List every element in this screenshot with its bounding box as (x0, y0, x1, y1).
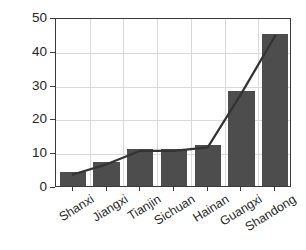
y-tick-label-10: 10 (7, 146, 47, 160)
bar-chart-figure: Time interval (Month) 50 40 30 20 10 0 (0, 0, 306, 250)
gridline-vertical-6 (258, 19, 259, 186)
gridline-horizontal-20 (56, 87, 290, 88)
bar-sichuan (161, 149, 187, 186)
y-tick-label-20: 20 (7, 112, 47, 126)
x-tick-mark-sichuan (173, 187, 174, 191)
y-tick-label-0: 0 (7, 180, 47, 194)
x-tick-mark-jiangxi (106, 187, 107, 191)
y-tick-label-50: 50 (7, 11, 47, 25)
bar-hainan (195, 145, 221, 186)
bar-guangxi (228, 91, 254, 186)
plot-area (55, 18, 291, 187)
gridline-vertical-1 (90, 19, 91, 186)
gridline-vertical-4 (191, 19, 192, 186)
x-tick-mark-shanxi (72, 187, 73, 191)
y-tick-label-40: 40 (7, 45, 47, 59)
bar-tianjin (127, 149, 153, 186)
x-tick-mark-guangxi (240, 187, 241, 191)
gridline-horizontal-10 (56, 53, 290, 54)
x-tick-mark-hainan (207, 187, 208, 191)
bar-jiangxi (93, 162, 119, 186)
bar-shandong (262, 34, 288, 186)
gridline-vertical-2 (123, 19, 124, 186)
gridline-horizontal-30 (56, 120, 290, 121)
y-tick-mark-0 (50, 187, 55, 188)
x-tick-mark-shandong (274, 187, 275, 191)
gridline-vertical-5 (225, 19, 226, 186)
gridline-vertical-3 (157, 19, 158, 186)
bar-shanxi (60, 172, 86, 186)
x-tick-mark-tianjin (139, 187, 140, 191)
y-tick-label-30: 30 (7, 79, 47, 93)
